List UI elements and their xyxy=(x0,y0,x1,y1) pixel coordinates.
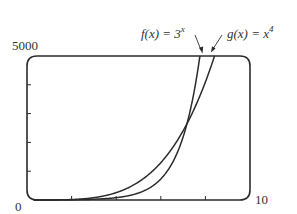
curve-f-3-to-the-x xyxy=(34,56,200,200)
origin-label: 0 xyxy=(15,199,22,214)
y-max-label: 5000 xyxy=(12,38,38,53)
f-label-exponent: x xyxy=(180,24,185,34)
g-label-arrow xyxy=(211,35,222,53)
f-label-main: f(x) = 3 xyxy=(141,26,181,41)
g-label: g(x) = x4 xyxy=(227,24,274,41)
chart: 5000 0 10 f(x) = 3x g(x) = x4 xyxy=(0,0,297,214)
f-label-arrow xyxy=(195,35,203,54)
g-label-exponent: 4 xyxy=(269,24,274,34)
f-label: f(x) = 3x xyxy=(141,24,185,41)
curve-g-x-to-the-4 xyxy=(34,56,215,200)
x-max-label: 10 xyxy=(255,192,268,207)
viewing-window-frame xyxy=(27,56,250,200)
g-label-main: g(x) = x xyxy=(227,26,269,41)
